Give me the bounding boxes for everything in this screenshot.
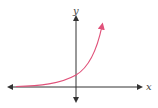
chart-canvas: y x [0, 0, 158, 108]
x-axis-label: x [146, 81, 152, 92]
exponential-curve [16, 26, 102, 87]
y-axis-label: y [72, 5, 79, 16]
